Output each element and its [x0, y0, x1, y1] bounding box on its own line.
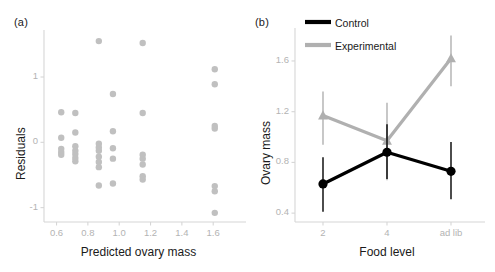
panel-a-x-tick-label: 1.6	[193, 227, 233, 238]
panel-b-y-axis-title: Ovary mass	[259, 121, 273, 185]
scatter-point	[140, 176, 146, 182]
panel-a-scatter: (a) Predicted ovary mass Residuals 0.60.…	[0, 0, 248, 272]
scatter-point	[110, 128, 116, 134]
figure-container: (a) Predicted ovary mass Residuals 0.60.…	[0, 0, 495, 272]
series-control	[318, 124, 455, 211]
panel-b-line: (b) Food level Ovary mass Control Experi…	[247, 0, 495, 272]
panel-b-x-tick-label: 2	[298, 227, 348, 238]
panel-b-y-tick-label: 0.8	[251, 155, 289, 166]
scatter-point	[140, 155, 146, 161]
panel-b-y-tick-label: 1.6	[251, 54, 289, 65]
data-point-marker	[382, 148, 391, 157]
panel-a-x-axis-title: Predicted ovary mass	[46, 245, 231, 259]
scatter-point	[72, 110, 78, 116]
scatter-point	[212, 81, 218, 87]
panel-b-x-tick-label: 4	[362, 227, 412, 238]
scatter-point	[212, 188, 218, 194]
scatter-point	[140, 110, 146, 116]
panel-b-y-tick-label: 0.4	[251, 206, 289, 217]
panel-b-x-axis-title: Food level	[292, 245, 482, 259]
panel-a-y-tick-label: -1	[2, 201, 38, 212]
panel-a-y-tick-label: 0	[2, 135, 38, 146]
scatter-point	[58, 135, 64, 141]
panel-b-y-tick-label: 1.2	[251, 105, 289, 116]
data-point-marker	[446, 53, 456, 62]
scatter-point	[72, 129, 78, 135]
legend-label-experimental: Experimental	[335, 40, 396, 52]
panel-a-point-group	[58, 38, 218, 216]
scatter-point	[58, 152, 64, 158]
scatter-point	[96, 164, 102, 170]
scatter-point	[212, 66, 218, 72]
scatter-point	[140, 161, 146, 167]
scatter-point	[72, 158, 78, 164]
scatter-point	[110, 180, 116, 186]
scatter-point	[96, 182, 102, 188]
panel-a-y-tick-label: 1	[2, 70, 38, 81]
scatter-point	[58, 109, 64, 115]
scatter-point	[212, 210, 218, 216]
scatter-point	[212, 125, 218, 131]
data-point-marker	[318, 110, 328, 119]
scatter-point	[96, 38, 102, 44]
scatter-point	[96, 148, 102, 154]
scatter-point	[110, 145, 116, 151]
scatter-point	[140, 40, 146, 46]
scatter-point	[110, 91, 116, 97]
legend-label-control: Control	[335, 17, 369, 29]
scatter-point	[110, 155, 116, 161]
panel-b-x-tick-label: ad lib	[426, 227, 476, 238]
data-point-marker	[318, 179, 327, 188]
data-point-marker	[446, 167, 455, 176]
